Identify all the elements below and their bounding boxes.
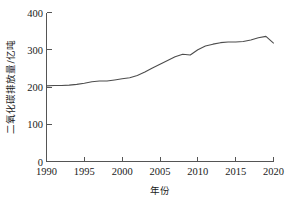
y-tick-label: 100 [27,119,43,130]
x-tick-labels: 1990 1995 2000 2005 2010 2015 2020 [36,166,284,177]
y-tick-label: 400 [27,8,43,19]
x-tick-label: 2000 [112,166,133,177]
x-tick-label: 2020 [263,166,284,177]
x-tick-label: 1990 [36,166,57,177]
y-tick-labels: 400 300 200 100 0 [27,8,43,168]
y-tick-label: 200 [27,82,43,93]
x-tick-label: 2010 [187,166,208,177]
chart-canvas: 400 300 200 100 0 1990 1995 2000 2005 20… [0,0,287,201]
line-chart: 400 300 200 100 0 1990 1995 2000 2005 20… [0,0,287,201]
axis-frame [47,13,274,162]
x-axis-title: 年份 [150,185,170,196]
x-tick-label: 2005 [150,166,171,177]
y-tick-marks [47,13,52,162]
x-tick-label: 1995 [74,166,95,177]
emissions-line [47,36,274,86]
x-tick-marks [47,157,274,162]
y-tick-label: 300 [27,45,43,56]
x-tick-label: 2015 [225,166,246,177]
y-axis-title: 二氧化碳排放量/亿吨 [5,40,16,133]
